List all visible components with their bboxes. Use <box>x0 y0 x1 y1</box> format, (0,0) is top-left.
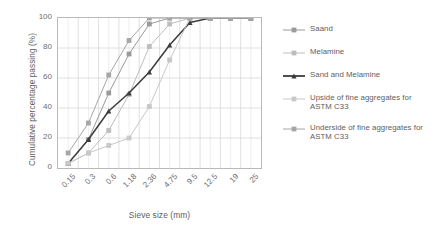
legend-key-icon <box>283 71 305 81</box>
vertical-gridlines <box>78 18 240 168</box>
legend-label: Sand and Melamine <box>310 70 380 79</box>
plot-area <box>57 17 262 169</box>
legend-key-icon <box>283 48 305 58</box>
legend-label: Saand <box>310 24 333 33</box>
legend-key-icon <box>283 124 305 134</box>
legend-item[interactable]: Upside of fine aggregates for ASTM C33 <box>283 93 433 111</box>
legend-item[interactable]: Underside of fine aggregates for ASTM C3… <box>283 123 433 141</box>
chart-legend: SaandMelamineSand and MelamineUpside of … <box>283 24 433 153</box>
chart-figure: Cumulative percentage passing (%) 100806… <box>0 0 438 237</box>
y-tick-label: 80 <box>30 43 52 51</box>
x-axis-title: Sieve size (mm) <box>57 210 262 220</box>
legend-item[interactable]: Melamine <box>283 47 433 58</box>
y-tick-label: 40 <box>30 103 52 111</box>
legend-key-icon <box>283 25 305 35</box>
legend-key-icon <box>283 94 305 104</box>
y-tick-label: 100 <box>30 13 52 21</box>
legend-label: Upside of fine aggregates for ASTM C33 <box>310 93 433 111</box>
legend-label: Melamine <box>310 47 344 56</box>
legend-label: Underside of fine aggregates for ASTM C3… <box>310 123 433 141</box>
y-tick-label: 20 <box>30 133 52 141</box>
y-tick-label: 0 <box>30 163 52 171</box>
series-canvas <box>58 18 261 168</box>
y-tick-label: 60 <box>30 73 52 81</box>
x-axis-tick-labels: 0.150.30.61.182.364.759.512.51925 <box>57 170 262 210</box>
legend-item[interactable]: Saand <box>283 24 433 35</box>
legend-item[interactable]: Sand and Melamine <box>283 70 433 81</box>
